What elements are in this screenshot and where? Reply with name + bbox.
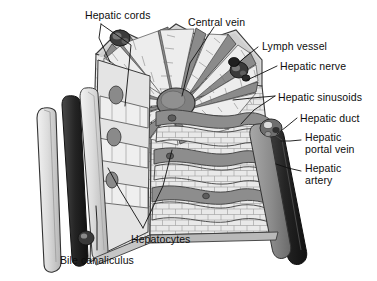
label-lymph-vessel: Lymph vessel: [262, 41, 327, 53]
label-hepatic-nerve: Hepatic nerve: [280, 61, 346, 73]
label-layer: Hepatic cordsCentral veinLymph vesselHep…: [0, 0, 377, 281]
label-bile-canaliculus: Bile canaliculus: [60, 255, 134, 267]
label-hepatic-portal-vein: Hepatic portal vein: [305, 132, 355, 155]
label-hepatic-cords: Hepatic cords: [85, 10, 151, 22]
label-hepatic-sinusoids: Hepatic sinusoids: [278, 92, 362, 104]
label-central-vein: Central vein: [188, 17, 245, 29]
liver-lobule-figure: Hepatic cordsCentral veinLymph vesselHep…: [0, 0, 377, 281]
label-hepatic-artery: Hepatic artery: [305, 163, 341, 186]
label-hepatocytes: Hepatocytes: [131, 234, 190, 246]
label-hepatic-duct: Hepatic duct: [300, 113, 360, 125]
